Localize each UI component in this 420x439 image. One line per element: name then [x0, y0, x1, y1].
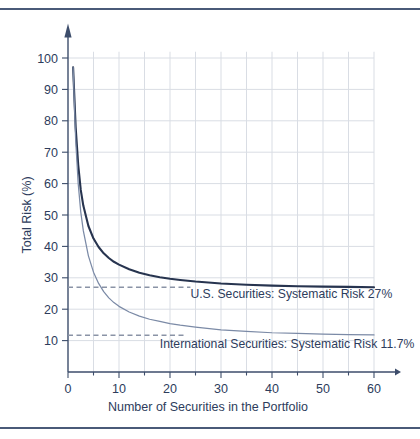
y-tick-label: 30: [44, 271, 58, 285]
risk-diversification-chart: 0102030405060102030405060708090100 U.S. …: [0, 0, 420, 439]
chart-figure: 0102030405060102030405060708090100 U.S. …: [0, 0, 420, 439]
x-axis-arrowhead: [395, 368, 401, 375]
y-tick-label: 20: [44, 303, 58, 317]
y-axis-title: Total Risk (%): [20, 176, 34, 253]
y-tick-label: 80: [44, 114, 58, 128]
bottom-divider-rule: [0, 427, 420, 429]
y-axis-arrowhead: [64, 23, 71, 37]
y-tick-label: 90: [44, 83, 58, 97]
y-tick-label: 60: [44, 177, 58, 191]
x-tick-label: 40: [265, 382, 279, 396]
reference-lines: [68, 287, 190, 335]
x-axis-title: Number of Securities in the Portfolio: [108, 400, 308, 414]
y-tick-label: 70: [44, 146, 58, 160]
y-tick-label: 100: [37, 52, 58, 66]
curve-us-securities: [73, 67, 374, 287]
x-tick-label: 50: [316, 382, 330, 396]
intl-annotation: International Securities: Systematic Ris…: [160, 337, 415, 351]
axis-lines: [64, 23, 401, 375]
y-tick-label: 50: [44, 209, 58, 223]
us-annotation: U.S. Securities: Systematic Risk 27%: [190, 287, 392, 301]
x-tick-label: 20: [163, 382, 177, 396]
x-tick-label: 10: [112, 382, 126, 396]
x-tick-label: 30: [214, 382, 228, 396]
y-tick-label: 40: [44, 240, 58, 254]
y-tick-label: 10: [44, 334, 58, 348]
x-tick-label: 60: [367, 382, 381, 396]
chart-annotations: U.S. Securities: Systematic Risk 27%Inte…: [160, 287, 415, 351]
top-divider-rule: [0, 8, 420, 10]
x-tick-label: 0: [65, 382, 72, 396]
gridlines: [68, 52, 374, 372]
